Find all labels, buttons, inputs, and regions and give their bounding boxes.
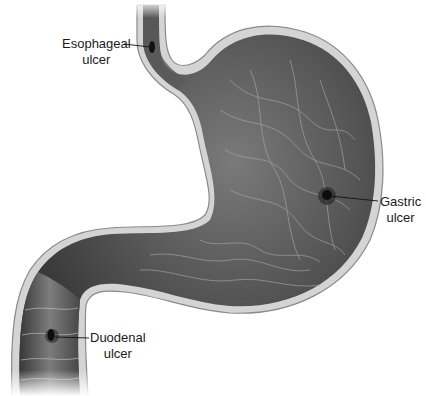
duodenal-label-line1: Duodenal <box>90 330 146 346</box>
esophageal-ulcer-label: Esophageal ulcer <box>62 36 131 68</box>
duodenal-ulcer <box>45 329 59 343</box>
duodenal-label-line2: ulcer <box>90 346 146 362</box>
gastric-label-line2: ulcer <box>380 210 421 226</box>
esophageal-label-line2: ulcer <box>62 52 131 68</box>
gastric-label-line1: Gastric <box>380 194 421 210</box>
duodenal-ulcer-label: Duodenal ulcer <box>90 330 146 362</box>
gastric-ulcer-label: Gastric ulcer <box>380 194 421 226</box>
esophageal-label-line1: Esophageal <box>62 36 131 52</box>
